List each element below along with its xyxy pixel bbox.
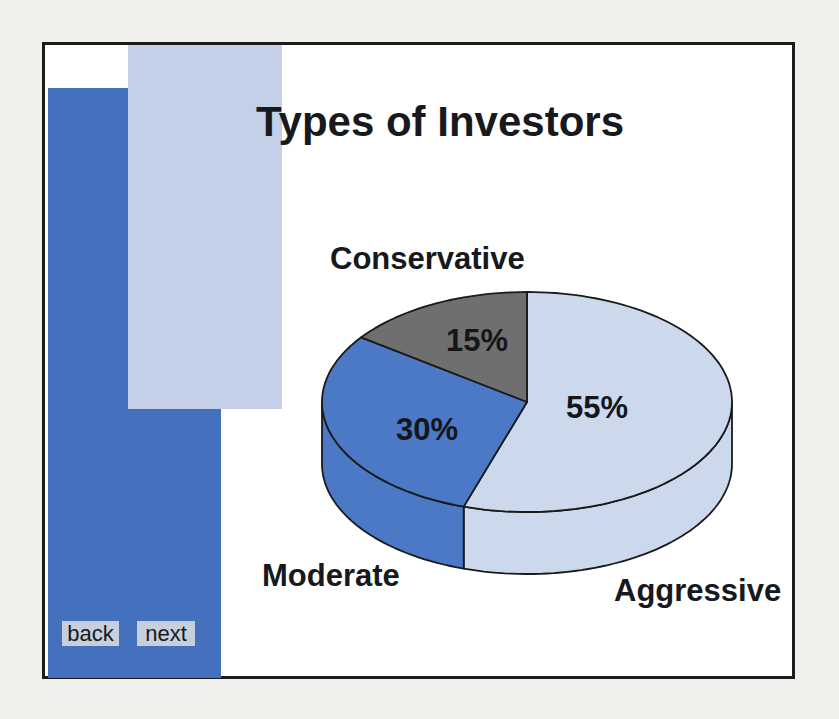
pie-label-moderate: Moderate [262, 560, 400, 591]
page-background: Types of Investors Conservative Moderate… [0, 0, 839, 719]
pie-label-aggressive: Aggressive [614, 575, 781, 606]
back-button[interactable]: back [62, 621, 119, 646]
pie-value-moderate: 30% [396, 414, 458, 445]
pie-value-aggressive: 55% [566, 392, 628, 423]
slide-title: Types of Investors [256, 101, 624, 143]
next-button[interactable]: next [137, 621, 195, 646]
pie-value-conservative: 15% [446, 325, 508, 356]
pie-label-conservative: Conservative [330, 243, 525, 274]
